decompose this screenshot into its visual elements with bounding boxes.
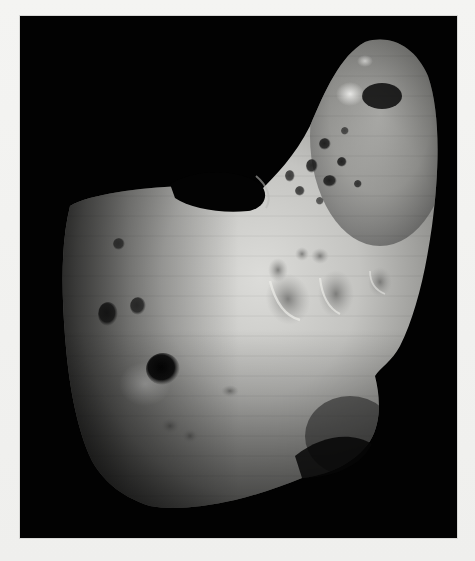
asteroid-photo bbox=[20, 16, 457, 538]
page bbox=[0, 0, 475, 561]
asteroid-illustration bbox=[20, 16, 457, 538]
